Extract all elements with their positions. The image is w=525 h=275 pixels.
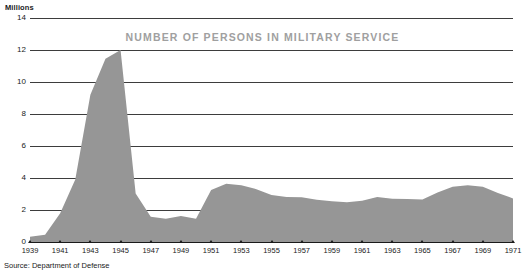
y-tick-label-0: 0 <box>2 238 26 246</box>
x-tick-label-1965: 1965 <box>414 246 431 255</box>
x-tick-label-1963: 1963 <box>384 246 401 255</box>
y-tick-label-2: 2 <box>2 206 26 214</box>
x-tick-label-1957: 1957 <box>293 246 310 255</box>
x-tick-label-1943: 1943 <box>82 246 99 255</box>
x-tick-mark-1961 <box>360 240 364 243</box>
x-tick-label-1945: 1945 <box>112 246 129 255</box>
x-tick-label-1969: 1969 <box>474 246 491 255</box>
area-series-military-service <box>30 18 513 242</box>
x-tick-label-1947: 1947 <box>142 246 159 255</box>
y-axis-unit-label: Millions <box>5 3 34 12</box>
x-tick-label-1941: 1941 <box>52 246 69 255</box>
y-tick-label-12: 12 <box>2 46 26 54</box>
x-tick-mark-1939 <box>28 240 32 243</box>
x-tick-mark-1947 <box>149 240 153 243</box>
x-tick-mark-1965 <box>420 240 424 243</box>
x-tick-label-1953: 1953 <box>233 246 250 255</box>
y-tick-label-10: 10 <box>2 78 26 86</box>
x-tick-mark-1953 <box>239 240 243 243</box>
x-tick-label-1955: 1955 <box>263 246 280 255</box>
plot-area <box>30 18 513 242</box>
x-tick-mark-1963 <box>390 240 394 243</box>
y-tick-label-6: 6 <box>2 142 26 150</box>
x-tick-label-1939: 1939 <box>22 246 39 255</box>
x-tick-mark-1957 <box>300 240 304 243</box>
x-tick-mark-1945 <box>119 240 123 243</box>
x-tick-label-1959: 1959 <box>324 246 341 255</box>
x-tick-mark-1971 <box>511 240 515 243</box>
area-path <box>30 50 513 242</box>
y-tick-label-8: 8 <box>2 110 26 118</box>
y-tick-label-4: 4 <box>2 174 26 182</box>
x-tick-label-1967: 1967 <box>444 246 461 255</box>
x-tick-label-1971: 1971 <box>505 246 522 255</box>
x-tick-label-1949: 1949 <box>173 246 190 255</box>
x-tick-mark-1959 <box>330 240 334 243</box>
x-tick-label-1951: 1951 <box>203 246 220 255</box>
x-tick-mark-1951 <box>209 240 213 243</box>
x-tick-mark-1967 <box>451 240 455 243</box>
chart-root: Millions NUMBER OF PERSONS IN MILITARY S… <box>0 0 525 275</box>
x-tick-label-1961: 1961 <box>354 246 371 255</box>
x-tick-mark-1969 <box>481 240 485 243</box>
y-axis-labels: 02468101214 <box>0 18 26 242</box>
x-tick-mark-1949 <box>179 240 183 243</box>
x-tick-mark-1941 <box>58 240 62 243</box>
y-tick-label-14: 14 <box>2 14 26 22</box>
source-note: Source: Department of Defense <box>4 261 109 270</box>
x-tick-mark-1943 <box>88 240 92 243</box>
x-tick-mark-1955 <box>270 240 274 243</box>
